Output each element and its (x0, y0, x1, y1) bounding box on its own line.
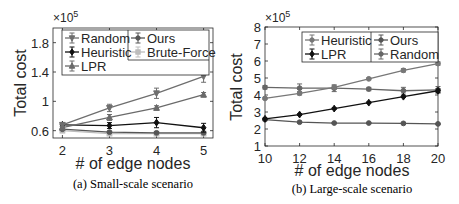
legend-label: LPR (81, 59, 106, 74)
y-multiplier: ×105 (265, 9, 290, 25)
data-marker (136, 50, 140, 54)
y-tick-label: 6 (254, 54, 261, 69)
x-tick-label: 20 (431, 151, 445, 166)
data-marker (297, 120, 302, 125)
data-marker (263, 96, 268, 101)
y-tick-label: 2 (254, 122, 261, 137)
x-tick-label: 12 (292, 151, 306, 166)
legend-label: Random (81, 31, 130, 46)
data-marker (401, 68, 406, 73)
legend: RandomHeuristicLPROursBrute-Force (62, 30, 216, 75)
x-tick-label: 16 (362, 151, 376, 166)
x-tick-label: 18 (396, 151, 410, 166)
legend-entry: Ours (131, 31, 176, 46)
data-marker (379, 52, 383, 56)
x-axis-label: # of edge nodes (295, 162, 410, 179)
y-tick-label: 1.4 (31, 65, 49, 80)
caption: (a) Small-scale scenario (73, 177, 193, 191)
data-marker (379, 38, 383, 42)
y-tick-label: 3 (254, 105, 261, 120)
y-axis-label: Total cost (12, 49, 29, 117)
large-scale-chart: ×105 Total cost # of edge nodes (b) Larg… (228, 9, 445, 196)
data-marker (366, 121, 371, 126)
caption: (b) Large-scale scenario (292, 182, 413, 196)
legend-label: Heuristic (81, 45, 132, 60)
legend-label: Ours (147, 31, 176, 46)
data-marker (263, 85, 268, 90)
data-marker (366, 87, 371, 92)
plot-area: 10121416182012345678HeuristicLPROursRand… (254, 20, 445, 166)
legend-entry: Ours (374, 33, 419, 48)
y-tick-label: 0.6 (31, 124, 49, 139)
legend-label: Ours (390, 33, 419, 48)
y-tick-label: 5 (254, 71, 261, 86)
data-marker (107, 130, 112, 135)
x-tick-label: 2 (59, 143, 66, 158)
y-tick-label: 1 (42, 94, 49, 109)
data-marker (154, 130, 159, 135)
data-marker (332, 121, 337, 126)
x-tick-label: 14 (327, 151, 341, 166)
x-axis-label: # of edge nodes (76, 155, 191, 172)
y-tick-label: 1 (254, 139, 261, 154)
y-tick-label: 4 (254, 88, 261, 103)
data-marker (401, 88, 406, 93)
x-tick-label: 3 (106, 143, 113, 158)
y-tick-label: 1.8 (31, 36, 49, 51)
data-marker (436, 122, 441, 127)
data-marker (401, 121, 406, 126)
small-scale-chart: ×105 Total cost # of edge nodes (a) Smal… (12, 9, 216, 191)
data-marker (366, 76, 371, 81)
y-tick-label: 7 (254, 37, 261, 52)
figure: ×105 Total cost # of edge nodes (a) Smal… (0, 0, 459, 204)
legend-label: Brute-Force (147, 45, 216, 60)
y-multiplier: ×105 (53, 9, 78, 25)
legend-entry: LPR (305, 47, 346, 62)
data-marker (297, 86, 302, 91)
data-marker (297, 91, 302, 96)
plot-area: 23450.611.41.8RandomHeuristicLPROursBrut… (31, 28, 216, 158)
legend-entry: LPR (65, 59, 106, 74)
legend-label: Heuristic (321, 33, 372, 48)
y-axis-label: Total cost (228, 53, 245, 121)
data-marker (310, 38, 314, 42)
data-marker (136, 36, 140, 40)
y-tick-label: 8 (254, 20, 261, 35)
legend: HeuristicLPROursRandom (302, 32, 439, 62)
legend-label: Random (390, 47, 439, 62)
data-marker (332, 85, 337, 90)
legend-label: LPR (321, 47, 346, 62)
x-tick-label: 5 (200, 143, 207, 158)
x-tick-label: 4 (153, 143, 160, 158)
